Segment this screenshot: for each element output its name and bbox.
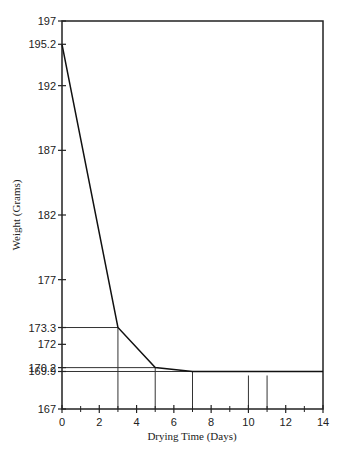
x-tick-label: 8 [208, 416, 214, 428]
y-tick-label: 167 [38, 403, 56, 415]
x-tick-label: 2 [96, 416, 102, 428]
y-axis-title: Weight (Grams) [10, 179, 23, 250]
x-tick-label: 10 [242, 416, 254, 428]
y-tick-label: 182 [38, 209, 56, 221]
y-tick-label: 192 [38, 80, 56, 92]
plot-frame [62, 21, 323, 409]
data-series [62, 44, 323, 371]
x-tick-label: 14 [317, 416, 329, 428]
y-axis: 167169.9170.2172173.3177182187192195.219… [28, 15, 66, 415]
x-axis-title: Drying Time (Days) [147, 430, 237, 443]
weight-line [62, 44, 323, 371]
reference-lines [62, 328, 323, 409]
y-tick-label: 172 [38, 338, 56, 350]
x-tick-label: 12 [280, 416, 292, 428]
y-tick-label: 173.3 [28, 322, 56, 334]
x-tick-label: 4 [134, 416, 140, 428]
y-tick-label: 197 [38, 15, 56, 27]
x-tick-label: 6 [171, 416, 177, 428]
y-tick-label: 195.2 [28, 38, 56, 50]
x-tick-label: 0 [59, 416, 65, 428]
y-tick-label: 170.2 [28, 362, 56, 374]
drying-chart: 02468101214 167169.9170.2172173.31771821… [0, 0, 339, 458]
y-tick-label: 177 [38, 274, 56, 286]
y-tick-label: 187 [38, 144, 56, 156]
plot-border [62, 21, 323, 409]
